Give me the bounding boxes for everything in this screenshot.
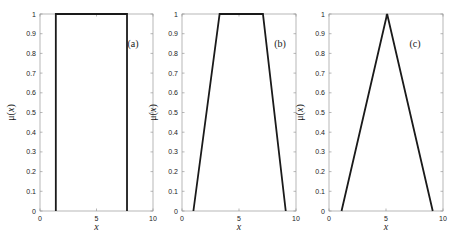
y-tick-label: 0	[32, 208, 36, 215]
x-tick-label: 0	[180, 215, 184, 222]
y-tick-label: 0.8	[315, 50, 325, 57]
y-tick-label: 0.9	[168, 30, 178, 37]
y-tick-label: 0.5	[168, 109, 178, 116]
y-tick-label: 0.7	[168, 70, 178, 77]
x-tick-label: 10	[149, 215, 157, 222]
y-tick-label: 0	[174, 208, 178, 215]
membership-curve	[193, 14, 285, 211]
chart-panel-b: 00.10.20.30.40.50.60.70.80.910510xμ(x)(b…	[147, 11, 300, 233]
x-tick-label: 0	[327, 215, 331, 222]
x-tick-label: 10	[439, 215, 447, 222]
y-tick-label: 0.8	[168, 50, 178, 57]
y-tick-label: 0.2	[315, 168, 325, 175]
y-tick-label: 0.4	[315, 129, 325, 136]
y-tick-label: 1	[32, 11, 36, 18]
y-tick-label: 0.4	[26, 129, 36, 136]
x-tick-label: 0	[38, 215, 42, 222]
y-tick-label: 0.1	[26, 188, 36, 195]
y-tick-label: 0.8	[26, 50, 36, 57]
y-axis-label: μ(x)	[294, 104, 306, 121]
y-tick-label: 0.9	[26, 30, 36, 37]
y-tick-label: 0.3	[315, 148, 325, 155]
chart-panel-a: 00.10.20.30.40.50.60.70.80.910510xμ(x)(a…	[5, 11, 157, 233]
membership-functions-figure: 00.10.20.30.40.50.60.70.80.910510xμ(x)(a…	[0, 0, 457, 241]
y-tick-label: 0.7	[315, 70, 325, 77]
panel-label: (c)	[409, 38, 420, 50]
y-axis-label: μ(x)	[147, 104, 159, 121]
y-tick-label: 0.6	[168, 89, 178, 96]
y-tick-label: 0.3	[168, 148, 178, 155]
x-tick-label: 10	[292, 215, 300, 222]
panel-label: (a)	[127, 38, 138, 50]
y-tick-label: 0.1	[168, 188, 178, 195]
y-tick-label: 0.6	[26, 89, 36, 96]
y-tick-label: 0.6	[315, 89, 325, 96]
y-tick-label: 1	[174, 11, 178, 18]
y-tick-label: 0.9	[315, 30, 325, 37]
x-axis-label: x	[383, 221, 389, 232]
y-tick-label: 0.7	[26, 70, 36, 77]
y-tick-label: 1	[321, 11, 325, 18]
y-tick-label: 0.2	[26, 168, 36, 175]
chart-panel-c: 00.10.20.30.40.50.60.70.80.910510xμ(x)(c…	[294, 11, 447, 233]
y-tick-label: 0.2	[168, 168, 178, 175]
y-tick-label: 0.5	[315, 109, 325, 116]
y-axis-label: μ(x)	[5, 104, 17, 121]
x-axis-label: x	[236, 221, 242, 232]
y-tick-label: 0.4	[168, 129, 178, 136]
membership-curve	[56, 14, 127, 211]
y-tick-label: 0	[321, 208, 325, 215]
x-axis-label: x	[93, 221, 99, 232]
panel-label: (b)	[274, 38, 286, 50]
y-tick-label: 0.5	[26, 109, 36, 116]
y-tick-label: 0.1	[315, 188, 325, 195]
y-tick-label: 0.3	[26, 148, 36, 155]
